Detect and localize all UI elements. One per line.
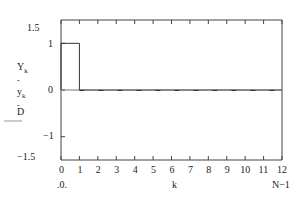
y-tick-minus1: −1 [43, 131, 54, 141]
y-tick-minus1.5: −1.5 [17, 152, 35, 162]
x-tick-6: 6 [170, 165, 175, 175]
x-tick-1: 1 [77, 165, 82, 175]
legend-yk: yk [17, 87, 26, 101]
x-range-start: .0. [57, 180, 67, 190]
x-tick-12: 12 [277, 165, 287, 175]
x-tick-5: 5 [151, 165, 156, 175]
x-tick-2: 2 [96, 165, 101, 175]
x-tick-7: 7 [188, 165, 193, 175]
y-tick-1.5: 1.5 [27, 23, 40, 33]
x-tick-8: 8 [206, 165, 211, 175]
x-tick-0: 0 [59, 165, 64, 175]
x-tick-3: 3 [114, 165, 119, 175]
x-tick-9: 9 [225, 165, 230, 175]
x-tick-4: 4 [133, 165, 138, 175]
legend-Yk: Yk [17, 62, 28, 76]
x-axis-label: k [172, 180, 177, 190]
y-tick-0: 0 [48, 85, 53, 95]
x-tick-10: 10 [240, 165, 250, 175]
x-tick-11: 11 [259, 165, 269, 175]
x-range-end: N−1 [272, 180, 290, 190]
legend-sep-1: - [17, 76, 20, 86]
legend-D: D [17, 107, 24, 117]
y-tick-1: 1 [48, 39, 53, 49]
